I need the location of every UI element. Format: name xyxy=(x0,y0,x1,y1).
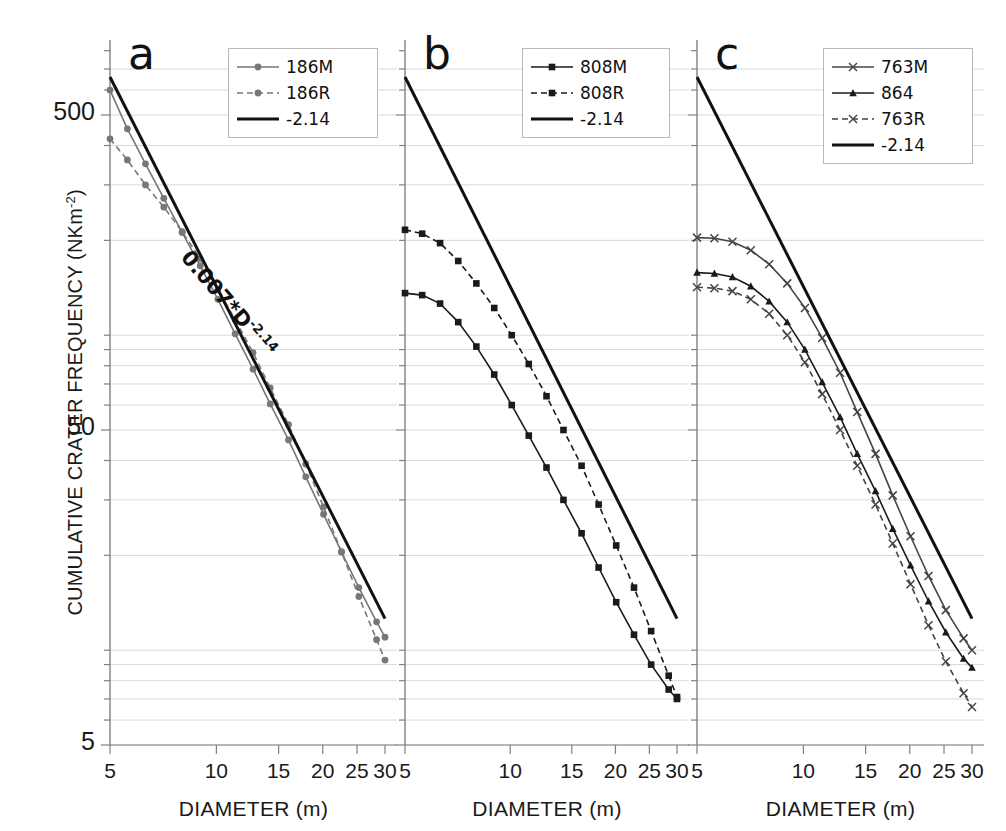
x-tick-label: 15 xyxy=(854,759,877,783)
figure-root: CUMULATIVE CRATER FREQUENCY (NKm-2) a186… xyxy=(0,0,1006,831)
legend-item: 808M xyxy=(529,54,661,80)
legend-swatch-icon xyxy=(830,110,876,128)
legend-swatch-icon xyxy=(830,58,876,76)
legend-label: -2.14 xyxy=(881,135,925,155)
x-axis-title: DIAMETER (m) xyxy=(766,797,915,821)
x-tick-label: 10 xyxy=(499,759,522,783)
legend-label: -2.14 xyxy=(286,109,330,129)
legend-item: -2.14 xyxy=(235,106,369,132)
legend-swatch-icon xyxy=(830,136,876,154)
x-tick-label: 10 xyxy=(792,759,815,783)
x-tick-label: 25 xyxy=(345,759,368,783)
legend-label: 186R xyxy=(286,83,330,103)
legend-label: -2.14 xyxy=(580,109,624,129)
x-tick-label: 5 xyxy=(399,759,411,783)
x-tick-label: 30 xyxy=(665,759,688,783)
legend-item: -2.14 xyxy=(529,106,661,132)
legend-label: 763R xyxy=(881,109,925,129)
legend-a: 186M186R-2.14 xyxy=(228,48,378,138)
legend-item: 186R xyxy=(235,80,369,106)
legend-swatch-icon xyxy=(830,84,876,102)
legend-item: 763R xyxy=(830,106,964,132)
legend-swatch-icon xyxy=(235,84,281,102)
annotation-base: 0.007*D xyxy=(176,246,256,333)
y-axis-title: CUMULATIVE CRATER FREQUENCY (NKm-2) xyxy=(63,92,88,712)
x-axis-title: DIAMETER (m) xyxy=(179,797,328,821)
panel-label-a: a xyxy=(128,28,155,79)
x-tick-label: 15 xyxy=(267,759,290,783)
x-tick-label: 30 xyxy=(960,759,983,783)
power-law-annotation: 0.007*D-2.14 xyxy=(176,245,282,361)
annotation-exponent: -2.14 xyxy=(246,317,282,355)
legend-item: 808R xyxy=(529,80,661,106)
legend-item: -2.14 xyxy=(830,132,964,158)
x-tick-label: 25 xyxy=(638,759,661,783)
x-tick-label: 5 xyxy=(104,759,116,783)
x-tick-label: 20 xyxy=(311,759,334,783)
x-axis-title: DIAMETER (m) xyxy=(472,797,621,821)
legend-item: 864 xyxy=(830,80,964,106)
y-tick-label: 500 xyxy=(25,97,95,126)
x-tick-label: 10 xyxy=(205,759,228,783)
x-tick-label: 5 xyxy=(691,759,703,783)
legend-b: 808M808R-2.14 xyxy=(522,48,670,138)
legend-c: 763M864763R-2.14 xyxy=(823,48,973,164)
x-tick-label: 30 xyxy=(373,759,396,783)
x-tick-label: 25 xyxy=(932,759,955,783)
legend-swatch-icon xyxy=(235,58,281,76)
legend-label: 864 xyxy=(881,83,913,103)
legend-swatch-icon xyxy=(529,58,575,76)
legend-label: 186M xyxy=(286,57,333,77)
panel-label-b: b xyxy=(423,28,451,79)
legend-swatch-icon xyxy=(529,110,575,128)
y-tick-label: 5 xyxy=(25,727,95,756)
legend-label: 808M xyxy=(580,57,627,77)
legend-swatch-icon xyxy=(235,110,281,128)
legend-label: 808R xyxy=(580,83,624,103)
x-tick-label: 20 xyxy=(898,759,921,783)
panel-label-c: c xyxy=(715,28,739,79)
legend-label: 763M xyxy=(881,57,928,77)
x-tick-label: 15 xyxy=(560,759,583,783)
x-tick-label: 20 xyxy=(604,759,627,783)
legend-item: 763M xyxy=(830,54,964,80)
legend-item: 186M xyxy=(235,54,369,80)
legend-swatch-icon xyxy=(529,84,575,102)
y-tick-label: 50 xyxy=(25,412,95,441)
